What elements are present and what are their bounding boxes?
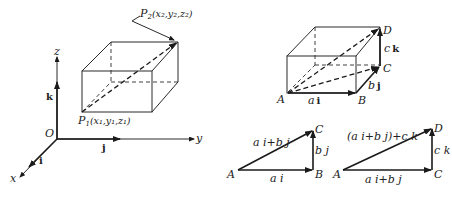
- triangle-acd: A C D a i+b j c k (a i+b j)+c k: [332, 122, 451, 186]
- box2-label-bj: bj: [368, 79, 381, 92]
- p1-label: P1(x₁,y₁,z₁): [77, 114, 131, 128]
- box2-hidden-depth: [288, 65, 315, 92]
- tri2-label-c: C: [434, 168, 443, 181]
- k-label: k: [46, 91, 54, 102]
- box2-label-b: B: [357, 94, 366, 107]
- rectangular-box-abcd: A B C D ai bj ck: [276, 24, 400, 107]
- vector-diagram: O z y x k j i P1(x₁,y₁,z₁) P2(x₂,y₂,z₂): [0, 0, 452, 197]
- tri1-label-b: B: [314, 168, 323, 181]
- diagonal-p1-p2: [82, 43, 176, 112]
- box2-label-ai: ai: [308, 94, 321, 107]
- tri1-label-vertical: b j: [315, 144, 330, 157]
- p2-leader-line: [132, 16, 174, 40]
- tri2-label-vertical: c k: [434, 144, 451, 157]
- tri1-label-base: a i: [270, 172, 284, 185]
- z-axis-label: z: [53, 45, 60, 58]
- box-right-edges: [152, 42, 178, 112]
- box-top-edges: [82, 42, 178, 71]
- j-label: j: [101, 142, 106, 153]
- box2-label-d: D: [382, 24, 392, 37]
- box2-label-ck: ck: [384, 42, 400, 55]
- i-unit-vector: [29, 139, 57, 167]
- y-axis-label: y: [195, 132, 203, 145]
- box2-front-face: [287, 56, 356, 93]
- tri2-label-d: D: [433, 122, 443, 135]
- tri2-label-hypotenuse: (a i+b j)+c k: [347, 130, 418, 143]
- tri2-label-a: A: [332, 168, 341, 181]
- box-hidden-depth: [82, 82, 111, 112]
- tri1-label-c: C: [315, 123, 324, 136]
- p2-label: P2(x₂,y₂,z₂): [139, 7, 193, 21]
- tri1-label-hypotenuse: a i+b j: [253, 136, 290, 149]
- tri2-label-base: a i+b j: [365, 173, 402, 186]
- box2-top-edges: [287, 27, 380, 56]
- box2-label-c: C: [383, 62, 392, 75]
- x-axis-label: x: [10, 172, 17, 185]
- triangle-abc: A B C a i b j a i+b j: [226, 123, 330, 185]
- i-label: i: [39, 155, 43, 166]
- rectangular-box-p1-p2: P1(x₁,y₁,z₁) P2(x₂,y₂,z₂): [77, 7, 193, 128]
- tri1-label-a: A: [226, 168, 235, 181]
- diagonal-ac: [288, 67, 378, 93]
- box2-label-a: A: [276, 93, 285, 106]
- origin-label: O: [45, 127, 54, 140]
- box-front-face: [82, 71, 152, 112]
